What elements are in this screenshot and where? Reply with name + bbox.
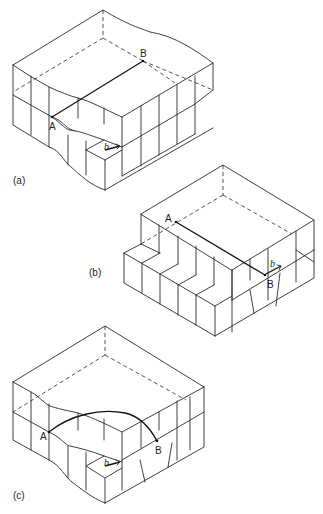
point-b-label: B [155,445,162,456]
burgers-vector-label: b [270,258,275,269]
point-a-label: A [40,431,47,442]
burgers-vector-label: b [104,457,109,468]
panel-a: B A b (a) [13,10,213,190]
point-b-label: B [140,48,147,59]
panel-b: A B b (b) [89,165,314,336]
point-a-label: A [49,121,56,132]
panel-c: A B b (c) [13,326,204,503]
burgers-vector-label: b [104,141,109,152]
point-a-label: A [165,213,172,224]
panel-c-caption: (c) [13,490,25,501]
panel-a-caption: (a) [13,175,25,186]
panel-b-caption: (b) [89,267,101,278]
point-b-label: B [267,279,274,290]
dislocation-diagram: B A b (a) [0,0,323,514]
